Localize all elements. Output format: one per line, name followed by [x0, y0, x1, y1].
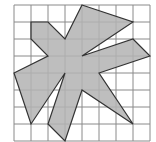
- grid-polygon-figure: [0, 0, 156, 142]
